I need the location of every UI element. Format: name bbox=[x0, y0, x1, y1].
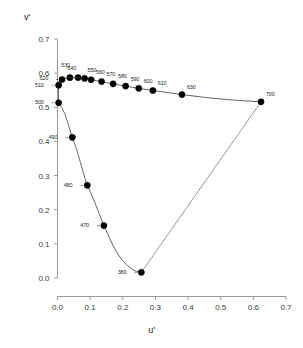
x-tick-label: 0.7 bbox=[280, 303, 291, 312]
data-point-marker bbox=[138, 269, 144, 275]
x-tick-label: 0.4 bbox=[183, 303, 194, 312]
data-point-marker bbox=[110, 81, 116, 87]
data-point-marker bbox=[84, 182, 90, 188]
spectral-locus-curve bbox=[58, 78, 261, 273]
y-tick-label: 0.4 bbox=[28, 137, 50, 146]
y-tick-label: 0.3 bbox=[28, 171, 50, 180]
data-point-marker bbox=[179, 91, 185, 97]
wavelength-label-580: 580 bbox=[118, 73, 127, 79]
wavelength-label-590: 590 bbox=[131, 76, 140, 82]
wavelength-label-510: 510 bbox=[35, 82, 44, 88]
wavelength-label-560: 560 bbox=[96, 69, 105, 75]
y-tick-label: 0.1 bbox=[28, 239, 50, 248]
chromaticity-diagram-figure: v' u' 0.00.10.20.30.40.50.60.7 0.00.10.2… bbox=[0, 0, 303, 348]
wavelength-label-470: 470 bbox=[80, 222, 89, 228]
y-tick-label: 0.2 bbox=[28, 205, 50, 214]
wavelength-label-540: 540 bbox=[68, 65, 77, 71]
purple-line bbox=[141, 102, 261, 273]
wavelength-label-630: 630 bbox=[187, 84, 196, 90]
data-point-marker bbox=[258, 99, 264, 105]
y-axis-title: v' bbox=[24, 12, 30, 22]
data-point-marker bbox=[69, 134, 75, 140]
wavelength-label-570: 570 bbox=[107, 71, 116, 77]
wavelength-label-380: 380 bbox=[118, 269, 127, 275]
x-tick-label: 0.3 bbox=[150, 303, 161, 312]
data-point-marker bbox=[81, 75, 87, 81]
x-tick-label: 0.1 bbox=[85, 303, 96, 312]
data-point-marker bbox=[136, 85, 142, 91]
wavelength-label-600: 600 bbox=[144, 78, 153, 84]
wavelength-label-520: 520 bbox=[39, 75, 48, 81]
wavelength-label-610: 610 bbox=[158, 80, 167, 86]
wavelength-label-500: 500 bbox=[35, 99, 44, 105]
data-point-marker bbox=[56, 82, 62, 88]
x-tick-label: 0.2 bbox=[117, 303, 128, 312]
wavelength-label-550: 550 bbox=[88, 67, 97, 73]
locus-polyline bbox=[58, 78, 261, 273]
data-point-marker bbox=[123, 83, 129, 89]
y-tick-label: 0.0 bbox=[28, 274, 50, 283]
data-point-marker bbox=[98, 79, 104, 85]
data-point-marker bbox=[59, 76, 65, 82]
x-tick-label: 0.6 bbox=[248, 303, 259, 312]
x-tick-label: 0.0 bbox=[52, 303, 63, 312]
wavelength-label-480: 480 bbox=[64, 182, 73, 188]
x-axis-title: u' bbox=[0, 325, 303, 335]
x-tick-label: 0.5 bbox=[215, 303, 226, 312]
data-point-marker bbox=[150, 87, 156, 93]
data-point-marker bbox=[56, 100, 62, 106]
y-tick-label: 0.7 bbox=[28, 35, 50, 44]
purple-line-segment bbox=[141, 102, 261, 273]
data-point-marker bbox=[88, 77, 94, 83]
wavelength-label-490: 490 bbox=[49, 134, 58, 140]
data-point-marker bbox=[101, 222, 107, 228]
wavelength-label-700: 700 bbox=[266, 91, 275, 97]
